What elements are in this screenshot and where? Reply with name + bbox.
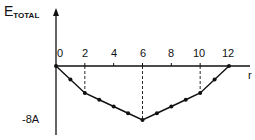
data-point <box>54 64 58 68</box>
data-point <box>112 105 116 109</box>
x-tick-label: 0 <box>57 48 63 59</box>
data-point <box>126 111 130 115</box>
data-point <box>155 111 159 115</box>
data-point <box>169 105 173 109</box>
x-tick-label: 10 <box>193 48 205 59</box>
data-point <box>83 91 87 95</box>
data-point <box>68 78 72 82</box>
data-point <box>213 78 217 82</box>
data-point <box>198 91 202 95</box>
data-point <box>141 118 145 122</box>
x-tick-label: 4 <box>111 48 117 59</box>
x-tick-label: 2 <box>82 48 88 59</box>
data-point <box>227 64 231 68</box>
y-axis-label: ETOTAL <box>4 6 39 19</box>
data-point <box>97 98 101 102</box>
y-tick-label-min: -8A <box>22 114 39 125</box>
y-axis-arrow-icon <box>53 8 59 16</box>
data-point <box>184 98 188 102</box>
x-tick-label: 12 <box>222 48 234 59</box>
x-tick-label: 6 <box>140 48 146 59</box>
x-tick-label: 8 <box>168 48 174 59</box>
x-axis-label: r <box>248 70 252 81</box>
